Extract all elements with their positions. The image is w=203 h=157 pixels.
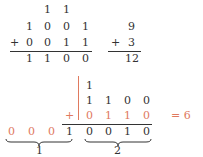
left-digit: 0 (48, 126, 55, 138)
right-digit: 1 (124, 126, 131, 138)
brace-label-right: 2 (114, 145, 121, 157)
operand-digit: 0 (26, 37, 33, 49)
result-digit: 1 (26, 53, 33, 65)
carry-digit: 1 (86, 80, 93, 92)
operand-digit: 0 (86, 110, 93, 122)
left-digit: 0 (28, 126, 35, 138)
decimal-sum: 12 (125, 53, 139, 65)
decimal-plus: + (111, 37, 120, 49)
decimal-operand: 3 (128, 37, 135, 49)
sum-line (10, 51, 92, 52)
result-digit: 0 (63, 53, 70, 65)
plus-sign: + (10, 37, 19, 49)
equals-value: = 6 (171, 110, 191, 122)
divider-line (78, 76, 79, 120)
operand-digit: 1 (124, 110, 131, 122)
plus-sign: + (65, 110, 74, 122)
result-digit: 0 (82, 53, 89, 65)
operand-digit: 1 (82, 21, 89, 33)
left-digit: 0 (8, 126, 15, 138)
operand-digit: 1 (82, 37, 89, 49)
operand-digit: 0 (124, 95, 131, 107)
result-digit: 1 (44, 53, 51, 65)
right-digit: 0 (105, 126, 112, 138)
brace-label-left: 1 (36, 145, 43, 157)
operand-digit: 1 (26, 21, 33, 33)
operand-digit: 1 (86, 95, 93, 107)
operand-digit: 0 (63, 21, 70, 33)
left-digit: 1 (66, 126, 73, 138)
operand-digit: 0 (143, 110, 150, 122)
right-digit: 0 (86, 126, 93, 138)
right-digit: 0 (143, 126, 150, 138)
carry-digit: 1 (63, 4, 70, 16)
carry-digit: 1 (44, 4, 51, 16)
operand-digit: 1 (63, 37, 70, 49)
operand-digit: 0 (44, 21, 51, 33)
operand-digit: 0 (44, 37, 51, 49)
decimal-operand: 9 (128, 21, 135, 33)
operand-digit: 1 (105, 110, 112, 122)
operand-digit: 1 (105, 95, 112, 107)
operand-digit: 0 (143, 95, 150, 107)
